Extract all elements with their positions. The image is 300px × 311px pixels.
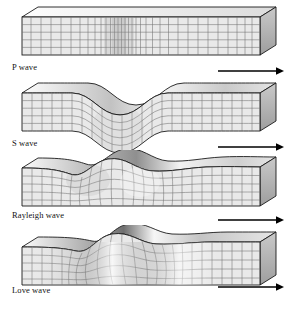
- panel-p-wave: P wave: [0, 0, 300, 78]
- p-wave-propagation-arrow: [218, 67, 284, 74]
- p-wave-top-face: [22, 7, 276, 17]
- love-wave-block-diagram: [0, 225, 300, 311]
- panel-love-wave: Love wave: [0, 225, 300, 311]
- wave-label-p-wave: P wave: [12, 63, 37, 72]
- love-wave-shear-shading: [22, 242, 260, 285]
- wave-label-rayleigh-wave: Rayleigh wave: [12, 211, 64, 220]
- rayleigh-wave-propagation-arrow: [218, 216, 284, 223]
- p-wave-block-diagram: [0, 0, 300, 78]
- p-wave-front-face: [22, 17, 260, 55]
- panel-rayleigh-wave: Rayleigh wave: [0, 150, 300, 226]
- wave-label-s-wave: S wave: [12, 139, 37, 148]
- p-wave-compression-band: [104, 17, 134, 55]
- s-wave-block-diagram: [0, 76, 300, 154]
- panel-s-wave: S wave: [0, 76, 300, 154]
- wave-label-love-wave: Love wave: [12, 286, 50, 295]
- seismic-wave-figure: P wave: [0, 0, 300, 311]
